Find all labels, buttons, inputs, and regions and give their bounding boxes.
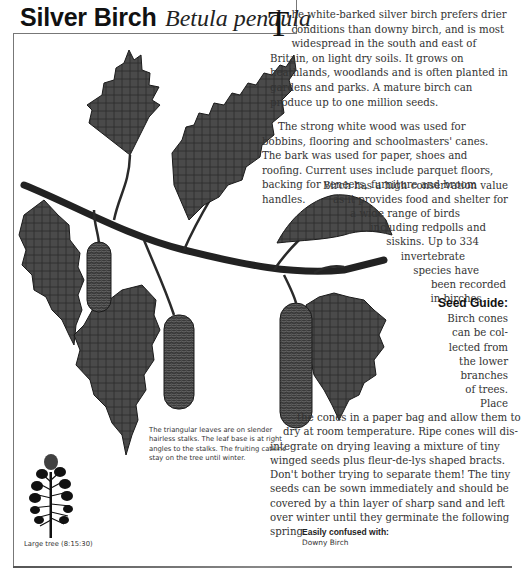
- seed-guide-line: can be col-: [452, 326, 508, 341]
- frame-bottom-border: [13, 566, 512, 568]
- conservation-line: siskins. Up to 334: [386, 235, 479, 250]
- seed-guide-line: winged seeds plus fleur-de-lys shaped br…: [270, 454, 505, 469]
- tree-silhouette-icon: [26, 452, 76, 538]
- seed-guide-line: the cones in a paper bag and allow them …: [297, 411, 521, 426]
- seed-guide-line: over winter until they germinate the fol…: [270, 511, 509, 526]
- illustration-caption: The triangular leaves are on slender hai…: [149, 426, 299, 464]
- drop-cap: T: [268, 11, 289, 39]
- conservation-line: as it provides food and shelter for: [333, 193, 508, 208]
- conservation-line: species have: [413, 264, 479, 279]
- conservation-line: been recorded: [431, 278, 506, 293]
- conservation-line: including redpolls and: [370, 221, 486, 236]
- seed-guide-heading: Seed Guide:: [438, 296, 508, 310]
- intro-paragraph-text: he white-barked silver birch prefers dri…: [270, 9, 508, 108]
- seed-guide-line: Place: [480, 397, 508, 412]
- confused-with-heading: Easily confused with:: [302, 527, 389, 537]
- seed-guide-line: covered by a thin layer of sharp sand an…: [270, 497, 505, 512]
- seed-guide-line: integrate on drying leaving a mixture of…: [270, 440, 500, 455]
- seed-guide-line: Don't bother trying to separate them! Th…: [270, 468, 510, 483]
- seed-guide-line: the lower: [459, 355, 508, 370]
- seed-guide-line: branches: [460, 369, 508, 384]
- confused-with-value: Downy Birch: [302, 538, 348, 547]
- conservation-line: invertebrate: [401, 250, 465, 265]
- tree-size-caption: Large tree (8:15:30): [24, 540, 93, 548]
- seed-guide-line: dry at room temperature. Ripe cones will…: [283, 425, 518, 440]
- seed-guide-line: lected from: [449, 341, 508, 356]
- conservation-line: Birch has a high conservation value: [323, 179, 508, 194]
- common-name-title: Silver Birch: [20, 3, 157, 32]
- seed-guide-line: seeds can be sown immediately and should…: [270, 482, 509, 497]
- seed-guide-line: of trees.: [465, 383, 508, 398]
- seed-guide-line: spring.: [270, 525, 306, 540]
- conservation-line: a wide range of birds: [350, 207, 460, 222]
- seed-guide-line: Birch cones: [447, 312, 508, 327]
- intro-paragraph: The white-barked silver birch prefers dr…: [270, 8, 510, 110]
- title-box: Silver Birch Betula pendula: [13, 0, 297, 34]
